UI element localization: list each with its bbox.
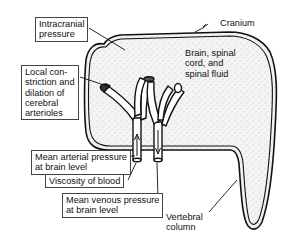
viscosity-label: Viscosity of blood [45,174,124,188]
vertebral-column-label: Vertebral column [166,212,203,233]
mean-venous-pressure-label: Mean venous pressure at brain level [62,193,163,218]
brain-label: Brain, spinal cord, and spinal fluid [185,48,236,79]
cranium-label: Cranium [220,18,255,28]
intracranial-pressure-label: Intracranial pressure [35,17,88,42]
mean-arterial-pressure-label: Mean arterial pressure at brain level [31,150,131,175]
local-constriction-label: Local con- striction and dilation of cer… [21,65,79,120]
